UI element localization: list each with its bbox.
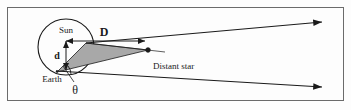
sun-label: Sun (59, 25, 74, 35)
distant-star-label: Distant star (153, 61, 194, 71)
baseline-d-label: d (54, 50, 60, 61)
distance-D-label: D (100, 25, 109, 39)
distant-star-marker (146, 48, 151, 53)
parallax-diagram-svg: Sun Earth Distant star d D θ (0, 0, 351, 110)
earth-marker (56, 70, 58, 72)
figure-root: Sun Earth Distant star d D θ (0, 0, 351, 110)
figure-background (0, 0, 351, 110)
earth-label: Earth (42, 74, 62, 84)
theta-label: θ (72, 83, 78, 97)
